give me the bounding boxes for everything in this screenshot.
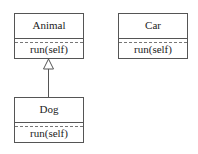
hollow-triangle-icon: [44, 59, 54, 69]
inheritance-arrow: [0, 0, 198, 154]
